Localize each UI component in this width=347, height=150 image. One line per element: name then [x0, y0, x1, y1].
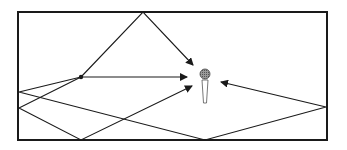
left-bottom-right-reflection — [19, 77, 326, 140]
ceiling-reflection — [81, 12, 193, 77]
left-bottom-reflection — [19, 77, 192, 140]
sound-paths — [19, 12, 326, 140]
sound-source-dot — [79, 75, 83, 79]
room-outline — [18, 12, 327, 140]
sound-reflection-diagram — [0, 0, 347, 150]
microphone-icon — [200, 69, 210, 103]
